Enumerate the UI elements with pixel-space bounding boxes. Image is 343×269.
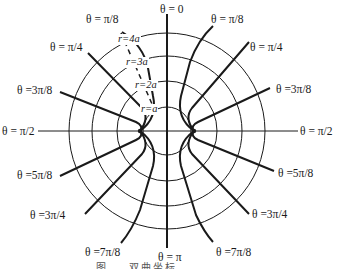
label-theta-5pi-8-right: θ =5π/8 [278,168,313,180]
label-r-4a: r=4a [117,34,141,45]
curve-theta-3pi-4-left [85,131,146,214]
label-theta-5pi-8-left: θ =5π/8 [17,170,52,182]
focus-left [138,129,142,133]
label-r-2a: r=2a [134,80,158,91]
label-theta-pi-2-left: θ = π/2 [2,126,35,138]
label-theta-7pi-8-right: θ =7π/8 [216,247,251,259]
label-r-a: r=a [140,104,158,115]
label-theta-0: θ = 0 [160,4,184,16]
label-theta-3pi-8-left: θ =3π/8 [17,85,52,97]
curve-theta-5pi-8-left [60,131,141,176]
label-theta-7pi-8-left: θ =7π/8 [85,247,120,259]
label-theta-pi-2-right: θ = π/2 [300,126,333,138]
label-r-3a: r=3a [125,57,149,68]
label-theta-pi-4-right: θ = π/4 [250,42,283,54]
curve-theta-pi-4-right [188,42,249,131]
label-theta-3pi-4-right: θ =3π/4 [252,209,287,221]
curve-theta-3pi-4-right [188,131,249,214]
label-theta-pi-8-right: θ = π/8 [211,14,244,26]
curve-theta-7pi-8-left [121,131,154,243]
label-theta-pi-8-left: θ = π/8 [86,14,119,26]
coordinate-diagram: θ = 0 θ = π/8 θ = π/8 θ = π/4 θ = π/4 θ … [0,0,343,269]
label-theta-3pi-4-left: θ =3π/4 [30,210,65,222]
label-theta-3pi-8-right: θ =3π/8 [276,84,311,96]
label-theta-pi-4-left: θ = π/4 [50,42,83,54]
figure-caption: 图 … 双曲坐标 … [96,259,256,269]
focus-right [192,129,196,133]
